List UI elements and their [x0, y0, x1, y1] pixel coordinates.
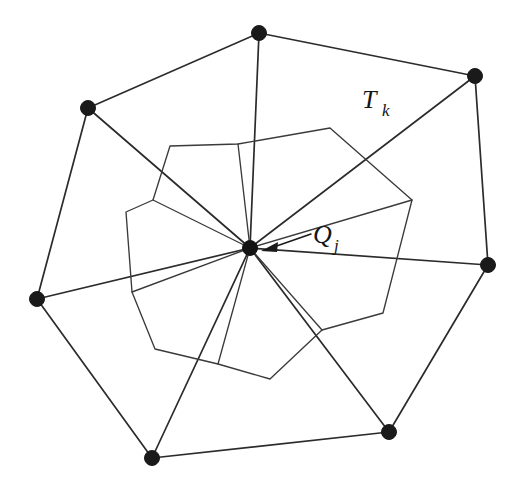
vertex-dot-3 [382, 425, 397, 440]
vertex-dot-1 [468, 69, 483, 84]
label-Qj-base: Q [313, 220, 332, 249]
outer-boundary-polygon [37, 33, 488, 458]
inner-spoke-5 [238, 144, 250, 248]
label-Qj-group: Q j [313, 220, 339, 255]
label-Tk-base: T [362, 85, 378, 114]
spoke-edge-6 [88, 108, 250, 248]
inner-polygon-outline [126, 128, 412, 379]
label-Qj-subscript: j [332, 236, 339, 255]
label-Tk-group: T k [362, 85, 390, 120]
vertex-dot-2 [481, 258, 496, 273]
figure-canvas: T k Q j [0, 0, 524, 488]
inner-spoke-3 [250, 248, 322, 330]
spoke-group [37, 33, 488, 458]
vertex-dot-6 [81, 101, 96, 116]
spoke-edge-5 [37, 248, 250, 299]
spoke-edge-2 [250, 248, 488, 265]
mesh-diagram-svg: T k Q j [0, 0, 524, 488]
vertex-dot-5 [30, 292, 45, 307]
center-vertex-dot [243, 241, 258, 256]
inner-pinwheel-group [126, 128, 412, 379]
label-Tk-subscript: k [382, 101, 390, 120]
vertex-dot-0 [252, 26, 267, 41]
outer-boundary-group [37, 33, 488, 458]
center-vertex-group [243, 241, 258, 256]
vertex-dot-4 [145, 451, 160, 466]
vertex-dot-group [30, 26, 496, 466]
spoke-edge-3 [250, 248, 389, 432]
